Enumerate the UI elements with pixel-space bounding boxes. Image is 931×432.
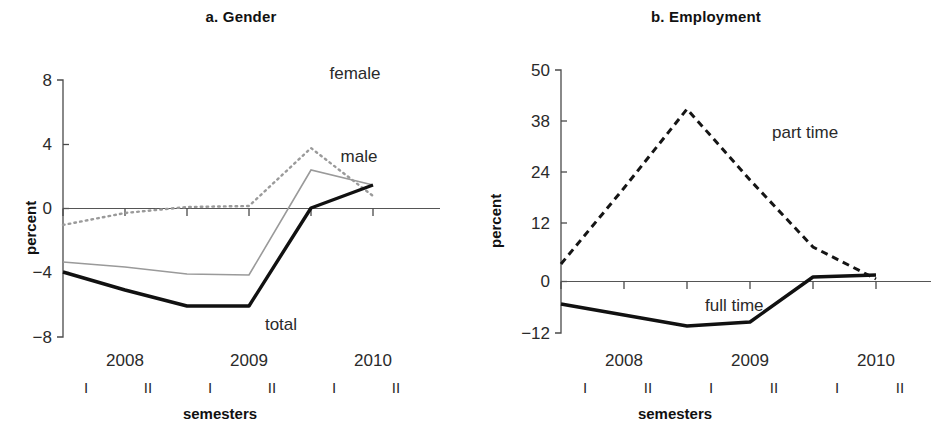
panel-employment: b. Employment percent semesters 50 38 24… — [465, 0, 931, 432]
panel-b-ytick-0: 0 — [541, 272, 550, 291]
series-label-female: female — [329, 64, 380, 83]
panel-a-sem-5: I — [332, 379, 336, 396]
series-label-part-time: part time — [772, 123, 838, 142]
panel-a-sem-3: I — [208, 379, 212, 396]
panel-a-ytick-0: 0 — [43, 199, 52, 218]
panel-b-ytick-12: 12 — [531, 214, 550, 233]
panel-b-sem-1: I — [583, 379, 587, 396]
panel-gender: a. Gender percent semesters 8 4 0 −4 −8 — [0, 0, 466, 432]
panel-a-ytick-neg4: −4 — [33, 263, 52, 282]
panel-b-y-ticks — [561, 121, 567, 282]
series-label-total: total — [265, 315, 297, 334]
series-male-line — [63, 170, 373, 275]
panel-a-sem-2: II — [144, 379, 152, 396]
panel-b-year-2008: 2008 — [605, 351, 643, 370]
panel-b-ytick-24: 24 — [531, 163, 550, 182]
panel-b-y-axis — [555, 70, 561, 333]
panel-b-plot: 50 38 24 12 0 −12 part time full time — [465, 0, 931, 432]
panel-b-sem-2: II — [644, 379, 652, 396]
panel-b-sem-5: I — [835, 379, 839, 396]
panel-a-sem-6: II — [392, 379, 400, 396]
panel-b-year-2010: 2010 — [857, 351, 895, 370]
figure-container: a. Gender percent semesters 8 4 0 −4 −8 — [0, 0, 931, 432]
panel-b-ytick-38: 38 — [531, 112, 550, 131]
series-female-line — [63, 148, 373, 225]
panel-a-plot: 8 4 0 −4 −8 female male — [0, 0, 466, 432]
panel-b-x-ticks — [561, 282, 876, 290]
panel-a-ytick-8: 8 — [43, 71, 52, 90]
panel-a-year-2010: 2010 — [354, 351, 392, 370]
panel-b-sem-6: II — [896, 379, 904, 396]
panel-a-sem-4: II — [268, 379, 276, 396]
panel-b-year-2009: 2009 — [731, 351, 769, 370]
panel-a-year-2008: 2008 — [106, 351, 144, 370]
panel-b-sem-4: II — [770, 379, 778, 396]
panel-a-sem-1: I — [84, 379, 88, 396]
panel-a-ytick-4: 4 — [43, 135, 52, 154]
panel-b-ytick-neg12: −12 — [521, 324, 550, 343]
panel-b-sem-3: I — [709, 379, 713, 396]
panel-a-year-2009: 2009 — [230, 351, 268, 370]
series-label-full-time: full time — [705, 296, 764, 315]
series-total-line — [63, 185, 373, 306]
panel-a-ytick-neg8: −8 — [33, 328, 52, 347]
panel-b-ytick-50: 50 — [531, 61, 550, 80]
panel-a-y-axis — [57, 80, 63, 337]
series-label-male: male — [341, 147, 378, 166]
